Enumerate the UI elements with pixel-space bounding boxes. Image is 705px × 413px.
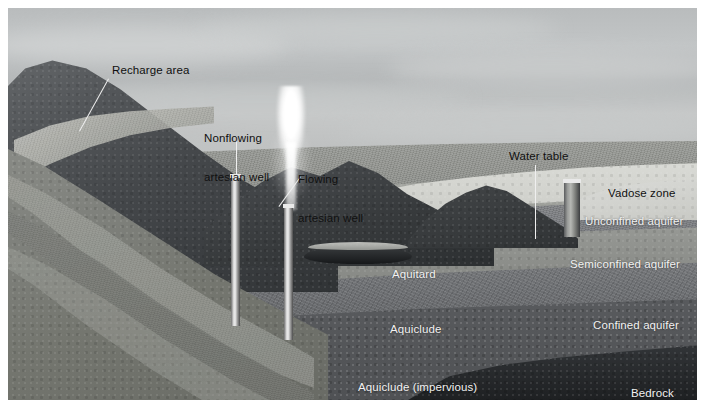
label-text: Aquiclude (impervious) [358, 381, 477, 393]
label-flowing-artesian-well: Flowing artesian well [298, 147, 363, 251]
well-cap [563, 179, 581, 183]
label-aquitard: Aquitard [392, 268, 436, 281]
cloud [338, 116, 697, 144]
label-text: Aquiclude [390, 323, 441, 335]
label-confined-aquifer: Confined aquifer [593, 319, 679, 332]
label-text: Confined aquifer [593, 319, 679, 331]
label-semiconfined-aquifer: Semiconfined aquifer [570, 258, 680, 271]
label-text-line2: artesian well [298, 212, 363, 225]
well-cap [283, 204, 294, 208]
label-bedrock: Bedrock [631, 387, 674, 400]
well-casing [564, 179, 580, 237]
label-text-line1: Nonflowing [204, 132, 269, 145]
label-text: Unconfined aquifer [585, 215, 683, 227]
water-table-well[interactable] [564, 179, 580, 237]
label-text: Water table [509, 150, 568, 162]
label-text: Bedrock [631, 387, 674, 399]
groundwater-cross-section-illustration: Recharge area Nonflowing artesian well F… [8, 8, 697, 400]
label-text: Recharge area [112, 64, 189, 76]
label-text: Vadose zone [608, 187, 675, 199]
label-recharge-area: Recharge area [112, 64, 189, 77]
flowing-artesian-well[interactable] [284, 204, 293, 340]
label-unconfined-aquifer: Unconfined aquifer [585, 215, 683, 228]
label-text-line1: Flowing [298, 173, 363, 186]
label-nonflowing-artesian-well: Nonflowing artesian well [204, 106, 269, 210]
label-vadose-zone: Vadose zone [608, 187, 675, 200]
well-casing [284, 204, 293, 340]
label-water-table: Water table [509, 150, 568, 163]
label-text-line2: artesian well [204, 171, 269, 184]
label-text: Semiconfined aquifer [570, 258, 680, 270]
figure-canvas: Recharge area Nonflowing artesian well F… [0, 0, 705, 413]
cloud [198, 14, 558, 44]
water-table-leader [535, 165, 536, 239]
cloud [388, 52, 697, 86]
label-aquiclude: Aquiclude [390, 323, 441, 336]
label-aquiclude-impervious: Aquiclude (impervious) [358, 381, 477, 394]
label-text: Aquitard [392, 268, 436, 280]
